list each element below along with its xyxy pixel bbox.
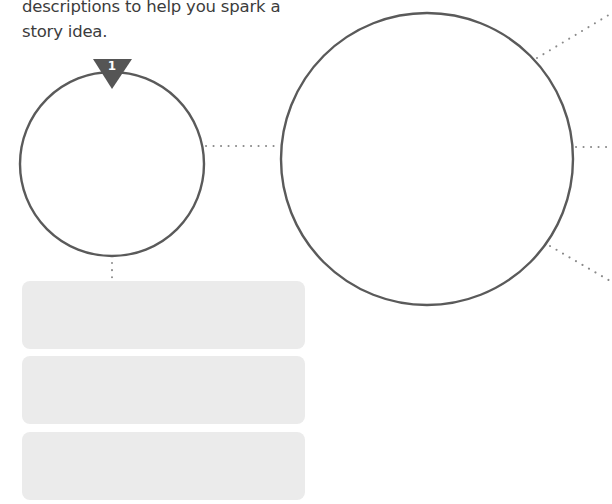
- connector-large-upper-right: [537, 13, 612, 58]
- small-circle[interactable]: [20, 72, 204, 256]
- large-circle[interactable]: [281, 13, 573, 305]
- organizer-diagram: [0, 0, 612, 504]
- answer-box-1[interactable]: [22, 281, 305, 349]
- answer-box-2[interactable]: [22, 356, 305, 424]
- answer-box-3[interactable]: [22, 432, 305, 500]
- connector-large-lower-right: [550, 246, 612, 282]
- step-badge-number: 1: [102, 59, 122, 73]
